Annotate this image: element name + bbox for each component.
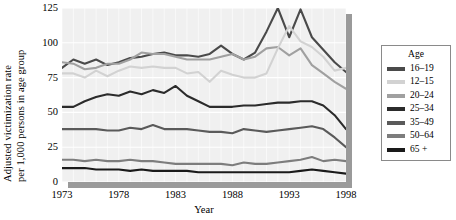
y-tick-label: 100 — [32, 38, 58, 49]
y-axis-title-line-1: Adjusted victimization rate — [2, 65, 13, 182]
legend-swatch-icon — [387, 121, 405, 125]
legend-item-label: 20–24 — [410, 91, 434, 101]
legend-swatch-icon — [387, 80, 405, 84]
x-tick-label: 1993 — [279, 190, 300, 201]
legend-item-12-15[interactable]: 12–15 — [387, 76, 449, 89]
y-axis-tick-labels: 0255075100125 — [30, 0, 58, 190]
legend-swatch-icon — [387, 148, 405, 152]
plot-lines — [62, 8, 346, 182]
legend-item-label: 35–49 — [410, 118, 434, 128]
legend-item-label: 25–34 — [410, 104, 434, 114]
legend-item-50-64[interactable]: 50–64 — [387, 130, 449, 143]
series-line-20-24 — [62, 47, 346, 89]
x-tick-label: 1998 — [336, 190, 357, 201]
legend-swatch-icon — [387, 134, 405, 138]
series-line-25-34 — [62, 86, 346, 129]
legend-item-label: 65 + — [410, 145, 427, 155]
x-axis-title: Year — [62, 204, 346, 215]
legend-title: Age — [382, 49, 450, 59]
legend-item-16-19[interactable]: 16–19 — [387, 62, 449, 75]
series-line-50-64 — [62, 157, 346, 165]
legend-item-label: 16–19 — [410, 64, 434, 74]
x-tick-label: 1973 — [52, 190, 73, 201]
chart-figure: Adjusted victimization rate per 1,000 pe… — [0, 0, 456, 220]
y-tick-label: 25 — [32, 142, 58, 153]
series-line-65+ — [62, 168, 346, 174]
y-tick-label: 50 — [32, 107, 58, 118]
x-tick-label: 1978 — [108, 190, 129, 201]
y-tick-label: 0 — [32, 177, 58, 188]
legend-item-25-34[interactable]: 25–34 — [387, 103, 449, 116]
y-axis-title-line-2: per 1,000 persons in age group — [15, 50, 26, 182]
plot-panel — [62, 8, 346, 182]
y-tick-label: 75 — [32, 73, 58, 84]
panel-shadow-bottom — [68, 182, 352, 188]
panel-shadow-right — [346, 14, 352, 188]
x-axis-tick-labels: 197319781983198819931998 — [62, 190, 346, 204]
legend-swatch-icon — [387, 107, 405, 111]
y-axis-title: Adjusted victimization rate per 1,000 pe… — [0, 0, 34, 190]
x-tick-label: 1983 — [165, 190, 186, 201]
legend-item-label: 50–64 — [410, 131, 434, 141]
y-tick-label: 125 — [32, 3, 58, 14]
series-line-35-49 — [62, 125, 346, 147]
legend-swatch-icon — [387, 94, 405, 98]
legend-swatch-icon — [387, 67, 405, 71]
legend-item-20-24[interactable]: 20–24 — [387, 89, 449, 102]
legend-item-65+[interactable]: 65 + — [387, 143, 449, 156]
series-line-16-19 — [62, 8, 346, 72]
legend-item-35-49[interactable]: 35–49 — [387, 116, 449, 129]
legend: Age 16–1912–1520–2425–3435–4950–6465 + — [381, 45, 451, 161]
legend-item-label: 12–15 — [410, 77, 434, 87]
x-tick-label: 1988 — [222, 190, 243, 201]
